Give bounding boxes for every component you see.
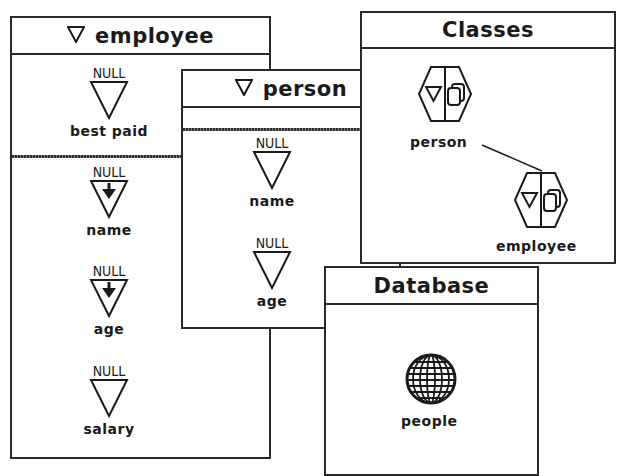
inherited-slot-triangle-icon [89, 179, 129, 219]
slot-label: age [64, 321, 154, 337]
database-title-bar[interactable]: Database [326, 268, 537, 305]
employee-window-title: employee [95, 24, 214, 48]
person-class-label[interactable]: person [410, 134, 467, 150]
slot-best-paid[interactable]: NULL best paid [64, 66, 154, 139]
employee-class-hexagon-icon[interactable] [513, 171, 569, 229]
slot-salary[interactable]: NULL salary [64, 364, 154, 437]
slot-value: NULL [227, 136, 317, 150]
slot-label: name [64, 222, 154, 238]
slot-label: salary [64, 421, 154, 437]
slot-value: NULL [64, 66, 154, 80]
slot-triangle-icon [89, 378, 129, 418]
slot-age[interactable]: NULL age [227, 236, 317, 309]
slot-triangle-icon [252, 150, 292, 190]
person-class-hexagon-icon[interactable] [417, 65, 473, 123]
collapse-triangle-icon[interactable] [67, 24, 85, 48]
database-window-title: Database [374, 274, 490, 298]
slot-label: best paid [64, 123, 154, 139]
classes-window[interactable]: Classes person employee [360, 11, 616, 264]
inheritance-link-line [362, 13, 614, 262]
inherited-slot-triangle-icon [89, 278, 129, 318]
collapse-triangle-icon[interactable] [235, 77, 253, 101]
slot-value: NULL [64, 165, 154, 179]
slot-triangle-icon [89, 80, 129, 120]
database-window[interactable]: Database people [324, 266, 539, 476]
slot-name[interactable]: NULL name [227, 136, 317, 209]
slot-value: NULL [64, 364, 154, 378]
people-database-label[interactable]: people [401, 413, 457, 429]
slot-value: NULL [64, 264, 154, 278]
slot-triangle-icon [252, 250, 292, 290]
slot-label: age [227, 293, 317, 309]
employee-class-label[interactable]: employee [496, 238, 577, 254]
slot-age[interactable]: NULL age [64, 264, 154, 337]
employee-title-bar[interactable]: employee [12, 18, 269, 55]
globe-icon[interactable] [404, 352, 458, 406]
slot-name[interactable]: NULL name [64, 165, 154, 238]
slot-label: name [227, 193, 317, 209]
person-window-title: person [263, 77, 348, 101]
slot-value: NULL [227, 236, 317, 250]
